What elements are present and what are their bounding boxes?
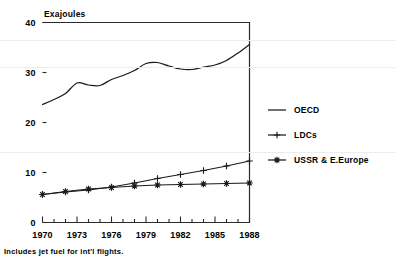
x-tick-label: 1988 — [239, 230, 259, 240]
x-axis: 1970197319761979198219851988 — [32, 217, 259, 240]
plus-marker — [200, 167, 206, 173]
star-marker — [223, 180, 229, 186]
star-marker — [131, 183, 137, 189]
legend-item: USSR & E.Europe — [268, 155, 369, 165]
star-marker — [62, 188, 68, 194]
legend-item: LDCs — [268, 130, 317, 140]
plot-frame — [43, 23, 250, 223]
star-marker — [200, 181, 206, 187]
y-tick-label: 10 — [25, 168, 35, 178]
y-tick-label: 0 — [30, 218, 35, 228]
series-line — [43, 45, 250, 105]
legend-label: LDCs — [294, 130, 317, 140]
star-marker — [274, 157, 280, 163]
line-chart: Exajoules 010203040 19701973197619791982… — [0, 0, 395, 266]
footnote: Includes jet fuel for int'l flights. — [4, 247, 124, 256]
star-marker — [154, 182, 160, 188]
x-tick-label: 1970 — [32, 230, 52, 240]
y-tick-label: 30 — [25, 68, 35, 78]
y-tick-label: 40 — [25, 18, 35, 28]
star-marker — [85, 186, 91, 192]
figure-container: Exajoules 010203040 19701973197619791982… — [0, 0, 395, 266]
y-tick-label: 20 — [25, 118, 35, 128]
plus-marker — [223, 163, 229, 169]
x-tick-label: 1982 — [170, 230, 190, 240]
chart-legend: OECDLDCsUSSR & E.Europe — [268, 105, 369, 165]
star-marker — [177, 181, 183, 187]
star-marker — [39, 191, 45, 197]
plus-marker — [274, 132, 280, 138]
x-tick-label: 1979 — [136, 230, 156, 240]
y-axis: 010203040 — [25, 18, 46, 228]
series-ussr-e-europe — [39, 180, 252, 198]
legend-label: USSR & E.Europe — [294, 155, 369, 165]
x-tick-label: 1985 — [205, 230, 225, 240]
legend-item: OECD — [268, 105, 319, 115]
series-line — [43, 183, 250, 195]
plus-marker — [246, 158, 252, 164]
plus-marker — [154, 175, 160, 181]
series-line — [43, 161, 250, 195]
star-marker — [246, 180, 252, 186]
data-series-group — [39, 45, 252, 198]
series-ldcs — [39, 158, 252, 198]
x-tick-label: 1973 — [67, 230, 87, 240]
series-oecd — [43, 45, 250, 105]
plus-marker — [177, 171, 183, 177]
x-tick-label: 1976 — [101, 230, 121, 240]
y-axis-title: Exajoules — [44, 9, 86, 19]
legend-label: OECD — [294, 105, 319, 115]
star-marker — [108, 184, 114, 190]
